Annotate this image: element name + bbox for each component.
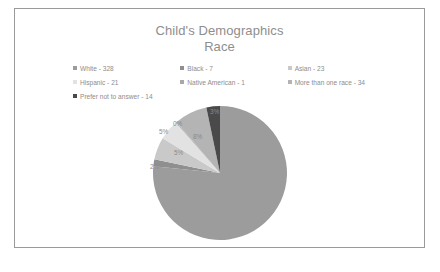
legend-swatch-icon [73, 80, 77, 84]
legend-swatch-icon [288, 66, 292, 70]
legend-label: More than one race - 34 [295, 78, 365, 87]
legend-label: White - 328 [80, 64, 114, 73]
legend-item-asian[interactable]: Asian - 23 [288, 64, 393, 73]
legend-item-more-than-one-race[interactable]: More than one race - 34 [288, 78, 393, 87]
slice-label-white: 77% [251, 199, 264, 207]
slice-label-prefer-not-to-answer: 3% [210, 108, 219, 116]
slice-label-more-than-one-race: 8% [193, 133, 202, 141]
chart-frame: Child's Demographics Race White - 328 Bl… [14, 8, 425, 248]
legend-item-black[interactable]: Black - 7 [180, 64, 287, 73]
legend-row: White - 328 Black - 7 Asian - 23 [73, 61, 393, 75]
legend-label: Hispanic - 21 [80, 78, 118, 87]
pie-plot-area: 3% 8% 0% 5% 5% 2% 77% [15, 105, 424, 249]
chart-title-line-2: Race [15, 39, 424, 55]
slice-label-hispanic: 5% [174, 149, 183, 157]
legend-swatch-icon [73, 94, 77, 98]
legend-label: Asian - 23 [295, 64, 325, 73]
legend-swatch-icon [180, 80, 184, 84]
slice-label-asian: 5% [159, 128, 168, 136]
legend-label: Black - 7 [187, 64, 213, 73]
legend-label: Native American - 1 [187, 78, 245, 87]
legend-item-native-american[interactable]: Native American - 1 [180, 78, 287, 87]
slice-label-native-american: 0% [173, 120, 182, 128]
legend-swatch-icon [288, 80, 292, 84]
chart-title-line-1: Child's Demographics [155, 23, 283, 38]
legend-row: Prefer not to answer - 14 [73, 89, 393, 103]
legend-swatch-icon [73, 66, 77, 70]
chart-legend: White - 328 Black - 7 Asian - 23 Hispani… [73, 61, 393, 103]
legend-item-hispanic[interactable]: Hispanic - 21 [73, 78, 180, 87]
legend-swatch-icon [180, 66, 184, 70]
legend-row: Hispanic - 21 Native American - 1 More t… [73, 75, 393, 89]
legend-item-prefer-not-to-answer[interactable]: Prefer not to answer - 14 [73, 92, 185, 101]
slice-label-black: 2% [150, 163, 159, 171]
legend-item-white[interactable]: White - 328 [73, 64, 180, 73]
legend-label: Prefer not to answer - 14 [80, 92, 153, 101]
page-title: Child's Demographics Race [15, 23, 424, 55]
